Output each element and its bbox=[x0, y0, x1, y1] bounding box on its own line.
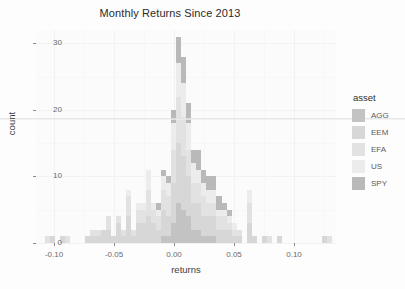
bar-segment-us bbox=[232, 223, 237, 230]
y-tick-mark bbox=[33, 43, 36, 44]
x-tick-mark bbox=[174, 243, 175, 246]
histogram-bar bbox=[252, 236, 257, 243]
bar-segment-spy bbox=[227, 210, 232, 217]
bar-segment-efa bbox=[247, 203, 252, 223]
gridline-y bbox=[36, 243, 336, 244]
bar-segment-spy bbox=[161, 170, 166, 177]
plot-panel bbox=[36, 30, 336, 243]
legend-title: asset bbox=[352, 92, 405, 103]
bar-segment-us bbox=[247, 190, 252, 203]
chart-title: Monthly Returns Since 2013 bbox=[0, 7, 340, 19]
legend: asset AGGEEMEFAUSSPY bbox=[352, 92, 405, 193]
legend-items: AGGEEMEFAUSSPY bbox=[352, 108, 405, 190]
histogram-bars bbox=[36, 30, 336, 243]
legend-item-spy[interactable]: SPY bbox=[352, 176, 405, 190]
histogram-bar bbox=[267, 236, 272, 243]
bar-segment-eem bbox=[277, 236, 282, 243]
bar-segment-spy bbox=[222, 203, 227, 210]
x-tick-label: -0.05 bbox=[94, 250, 134, 259]
x-tick-label: 0.05 bbox=[214, 250, 254, 259]
bar-segment-spy bbox=[186, 103, 191, 123]
histogram-bar bbox=[247, 190, 252, 243]
x-tick-label: -0.10 bbox=[34, 250, 74, 259]
bar-segment-efa bbox=[267, 236, 272, 243]
legend-item-label: AGG bbox=[371, 111, 389, 120]
legend-item-label: EEM bbox=[371, 128, 388, 137]
histogram-bar bbox=[65, 236, 70, 243]
scan-artifact-line-secondary bbox=[0, 119, 405, 120]
bar-segment-efa bbox=[126, 196, 131, 216]
histogram-bar bbox=[277, 236, 282, 243]
bar-segment-efa bbox=[116, 216, 121, 223]
legend-swatch-icon bbox=[352, 160, 365, 173]
bar-segment-spy bbox=[196, 150, 201, 170]
x-tick-mark bbox=[234, 243, 235, 246]
legend-swatch-icon bbox=[352, 143, 365, 156]
legend-swatch-icon bbox=[352, 109, 365, 122]
x-tick-mark bbox=[114, 243, 115, 246]
y-axis-title: count bbox=[6, 94, 17, 154]
x-tick-mark bbox=[294, 243, 295, 246]
legend-swatch-icon bbox=[352, 126, 365, 139]
legend-item-agg[interactable]: AGG bbox=[352, 108, 405, 122]
bar-segment-eem bbox=[50, 236, 55, 243]
bar-segment-efa bbox=[327, 236, 332, 243]
bar-segment-spy bbox=[211, 176, 216, 189]
bar-segment-eem bbox=[252, 236, 257, 243]
histogram-bar bbox=[327, 236, 332, 243]
x-tick-label: 0.00 bbox=[154, 250, 194, 259]
bar-segment-efa bbox=[106, 216, 111, 229]
y-tick-label: 0 bbox=[58, 238, 62, 247]
histogram-bar bbox=[50, 236, 55, 243]
histogram-bar bbox=[237, 230, 242, 243]
bar-segment-us bbox=[227, 216, 232, 223]
bar-segment-efa bbox=[65, 236, 70, 243]
bar-segment-us bbox=[126, 190, 131, 197]
legend-swatch-icon bbox=[352, 177, 365, 190]
legend-item-label: EFA bbox=[371, 145, 386, 154]
legend-item-eem[interactable]: EEM bbox=[352, 125, 405, 139]
x-axis-title: returns bbox=[36, 264, 336, 275]
legend-item-efa[interactable]: EFA bbox=[352, 142, 405, 156]
bar-segment-eem bbox=[237, 236, 242, 243]
legend-item-label: US bbox=[371, 162, 382, 171]
legend-item-us[interactable]: US bbox=[352, 159, 405, 173]
legend-item-label: SPY bbox=[371, 179, 387, 188]
y-tick-label: 20 bbox=[53, 105, 62, 114]
y-tick-label: 30 bbox=[53, 38, 62, 47]
y-tick-mark bbox=[33, 176, 36, 177]
y-tick-mark bbox=[33, 110, 36, 111]
bar-segment-spy bbox=[181, 57, 186, 84]
bar-segment-efa bbox=[237, 230, 242, 237]
x-tick-label: 0.10 bbox=[274, 250, 314, 259]
y-tick-mark bbox=[33, 243, 36, 244]
x-tick-mark bbox=[54, 243, 55, 246]
bar-segment-us bbox=[146, 170, 151, 190]
chart-root: Monthly Returns Since 2013 0102030 -0.10… bbox=[0, 0, 405, 289]
y-tick-label: 10 bbox=[53, 171, 62, 180]
bar-segment-us bbox=[186, 123, 191, 150]
